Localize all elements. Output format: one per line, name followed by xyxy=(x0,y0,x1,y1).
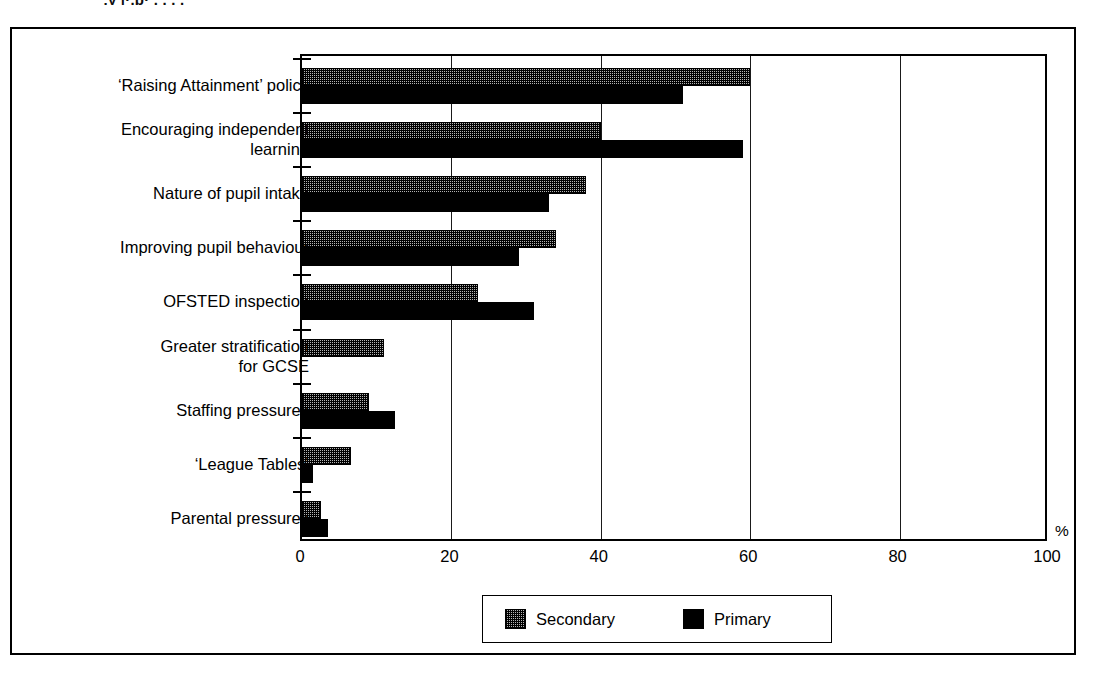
y-axis-tick-mark xyxy=(293,383,311,385)
chart-frame: % Secondary Primary 020406080100‘Raising… xyxy=(10,27,1076,655)
x-axis-tick-label: 80 xyxy=(868,547,928,566)
x-axis-tick-label: 20 xyxy=(419,547,479,566)
bar-secondary-6 xyxy=(302,393,369,411)
chart-legend: Secondary Primary xyxy=(482,595,832,643)
clipped-title-remnant: ''‚y |·.p· . . . . xyxy=(96,0,516,5)
y-axis-category-label: Nature of pupil intake xyxy=(39,183,309,203)
y-axis-tick-mark xyxy=(293,274,311,276)
bar-primary-1 xyxy=(302,140,743,158)
x-axis-tick-label: 60 xyxy=(718,547,778,566)
y-axis-category-label: Staffing pressures xyxy=(39,400,309,420)
bar-primary-3 xyxy=(302,248,519,266)
y-axis-category-label: Improving pupil behaviour xyxy=(39,237,309,257)
bar-primary-2 xyxy=(302,194,549,212)
x-axis-tick-label: 0 xyxy=(270,547,330,566)
bar-secondary-5 xyxy=(302,339,384,357)
y-axis-tick-mark xyxy=(293,437,311,439)
plot-area xyxy=(300,54,1047,541)
bar-secondary-2 xyxy=(302,176,586,194)
bar-secondary-4 xyxy=(302,284,478,302)
legend-entry-primary: Primary xyxy=(683,609,771,629)
gridline-40 xyxy=(601,56,602,539)
percent-axis-symbol: % xyxy=(1055,522,1069,540)
bar-primary-6 xyxy=(302,411,395,429)
y-axis-tick-mark xyxy=(293,58,311,60)
y-axis-tick-mark xyxy=(293,112,311,114)
bar-secondary-7 xyxy=(302,447,351,465)
y-axis-tick-mark xyxy=(293,220,311,222)
y-axis-tick-mark xyxy=(293,166,311,168)
y-axis-category-label: OFSTED inspection xyxy=(39,291,309,311)
bar-primary-0 xyxy=(302,86,683,104)
y-axis-category-label: Greater stratification for GCSE xyxy=(39,336,309,376)
chart-screenshot: ''‚y |·.p· . . . . % Secondary Primary 0… xyxy=(0,0,1096,677)
legend-label-primary: Primary xyxy=(714,610,771,629)
y-axis-category-label: ‘League Tables’ xyxy=(39,454,309,474)
bar-secondary-1 xyxy=(302,122,601,140)
y-axis-category-label: ‘Raising Attainment’ policy xyxy=(39,75,309,95)
gridline-80 xyxy=(900,56,901,539)
gridline-60 xyxy=(750,56,751,539)
y-axis-tick-mark xyxy=(293,329,311,331)
x-axis-tick-label: 40 xyxy=(569,547,629,566)
y-axis-category-label: Parental pressures xyxy=(39,508,309,528)
bar-secondary-0 xyxy=(302,68,750,86)
bar-secondary-3 xyxy=(302,230,556,248)
y-axis-category-label: Encouraging independent learning xyxy=(39,119,309,159)
y-axis-tick-mark xyxy=(293,491,311,493)
bar-primary-4 xyxy=(302,302,534,320)
legend-entry-secondary: Secondary xyxy=(505,609,615,629)
checkered-swatch-icon xyxy=(505,609,526,629)
solid-black-swatch-icon xyxy=(683,609,704,629)
legend-label-secondary: Secondary xyxy=(536,610,615,629)
x-axis-tick-label: 100 xyxy=(1017,547,1077,566)
